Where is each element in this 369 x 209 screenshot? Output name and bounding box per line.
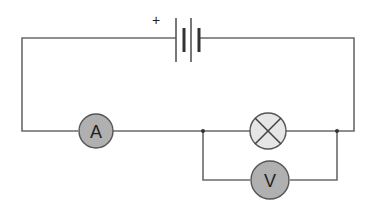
junction-node-left	[201, 129, 205, 133]
voltmeter-icon: V	[251, 161, 289, 199]
ammeter-icon: A	[79, 114, 113, 148]
battery-icon: +	[152, 12, 199, 62]
junction-node-right	[335, 129, 339, 133]
wires	[22, 38, 354, 180]
ammeter-label: A	[90, 122, 102, 142]
lamp-icon	[250, 113, 286, 149]
voltmeter-label: V	[264, 171, 276, 191]
circuit-diagram: + A V	[0, 0, 369, 209]
battery-plus-label: +	[152, 12, 160, 28]
